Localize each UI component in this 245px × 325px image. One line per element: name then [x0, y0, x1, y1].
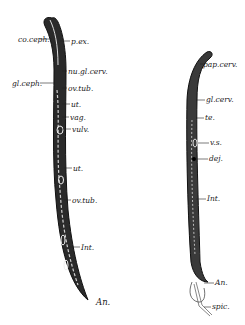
label-ut-upper: ut. [71, 101, 81, 109]
label-pap-cerv: pap.cerv. [203, 61, 237, 69]
label-int-female: Int. [81, 244, 94, 252]
label-gl-ceph: gl.ceph. [12, 80, 42, 88]
label-vag: vag. [70, 114, 86, 122]
label-vs: v.s. [210, 139, 222, 147]
label-gl-cerv: gl.cerv. [206, 96, 234, 104]
nematode-anatomy-figure: co.ceph. p.ex. nu.gl.cerv. gl.ceph. ov.t… [0, 0, 245, 325]
label-te: te. [205, 114, 215, 122]
label-co-ceph: co.ceph. [18, 36, 50, 44]
label-int-male: Int. [207, 195, 220, 203]
label-dej: dej. [209, 155, 223, 163]
male-worm [187, 52, 214, 316]
label-p-ex: p.ex. [71, 38, 89, 46]
label-ov-tub-lower: ov.tub. [72, 197, 97, 205]
label-nu-gl-cerv: nu.gl.cerv. [68, 68, 108, 76]
label-ov-tub-upper: ov.tub. [68, 85, 93, 93]
female-worm [40, 17, 88, 300]
label-vulv: vulv. [72, 126, 89, 134]
label-an-male: An. [215, 279, 228, 287]
label-ut-lower: ut. [73, 165, 83, 173]
label-an-female: An. [96, 298, 110, 306]
label-spic: spic. [212, 303, 230, 311]
